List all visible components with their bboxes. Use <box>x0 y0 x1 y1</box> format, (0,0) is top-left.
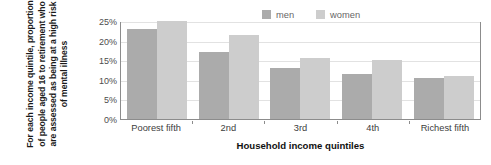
y-axis-tick-label: 20% <box>87 37 117 47</box>
bar-men-4th[interactable] <box>342 74 372 119</box>
x-axis-tick-label: 3rd <box>264 121 336 137</box>
x-axis-tick-labels: Poorest fifth2nd3rd4thRichest fifth <box>120 121 481 137</box>
y-axis-tick-label: 0% <box>87 115 117 125</box>
bar-group <box>121 22 193 119</box>
y-axis-tick-labels: 0%5%10%15%20%25% <box>84 22 117 120</box>
x-axis-tick-mark <box>264 121 265 124</box>
x-axis-tick-label: Richest fifth <box>409 121 481 137</box>
x-axis-tick-mark <box>409 121 410 124</box>
x-axis-tick-mark <box>337 121 338 124</box>
legend-item-men[interactable]: men <box>262 10 294 20</box>
y-axis-tick-label: 5% <box>87 95 117 105</box>
legend-label: men <box>276 10 294 20</box>
y-axis-title-container: For each income quintile, proportion of … <box>0 0 96 148</box>
y-axis-tick-label: 25% <box>87 17 117 27</box>
bar-groups <box>121 22 480 119</box>
bar-women-richest-fifth[interactable] <box>444 76 474 119</box>
legend-item-women[interactable]: women <box>316 10 360 20</box>
bar-group <box>265 22 337 119</box>
bar-men-2nd[interactable] <box>199 52 229 119</box>
x-axis-tick-label: Poorest fifth <box>120 121 192 137</box>
y-axis-tick-label: 10% <box>87 76 117 86</box>
bar-men-richest-fifth[interactable] <box>414 78 444 119</box>
bar-women-poorest-fifth[interactable] <box>157 21 187 119</box>
y-axis-title: For each income quintile, proportion of … <box>0 0 96 148</box>
bar-women-3rd[interactable] <box>300 58 330 119</box>
legend-swatch-icon <box>262 10 271 19</box>
bar-chart-figure: For each income quintile, proportion of … <box>0 0 491 165</box>
bar-men-poorest-fifth[interactable] <box>127 29 157 119</box>
legend-label: women <box>330 10 360 20</box>
bar-women-2nd[interactable] <box>229 35 259 119</box>
x-axis-tick-label: 2nd <box>192 121 264 137</box>
bar-group <box>336 22 408 119</box>
bar-women-4th[interactable] <box>372 60 402 119</box>
x-axis-title: Household income quintiles <box>120 140 481 151</box>
bar-men-3rd[interactable] <box>270 68 300 119</box>
x-axis-tick-mark <box>192 121 193 124</box>
legend-swatch-icon <box>316 10 325 19</box>
bar-group <box>193 22 265 119</box>
bar-group <box>408 22 480 119</box>
y-axis-tick-label: 15% <box>87 56 117 66</box>
x-axis-tick-label: 4th <box>337 121 409 137</box>
plot-area <box>120 22 481 120</box>
chart-legend: menwomen <box>262 8 360 21</box>
